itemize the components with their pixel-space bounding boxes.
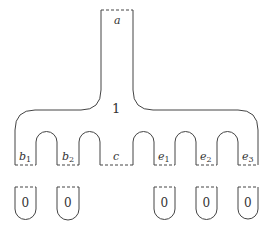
label-b1: b1 xyxy=(19,150,31,164)
label-a: a xyxy=(114,14,121,27)
label-1: 1 xyxy=(112,101,120,116)
label-e2: e2 xyxy=(200,150,212,164)
svg-text:0: 0 xyxy=(22,196,30,210)
svg-text:0: 0 xyxy=(64,196,72,210)
cap-e1: 0 xyxy=(154,187,175,219)
diagram-canvas: a 1 b1 b2 c e1 e2 e3 0 0 0 0 0 xyxy=(0,0,272,239)
svg-text:0: 0 xyxy=(203,196,211,210)
svg-text:0: 0 xyxy=(244,196,252,210)
label-b2: b2 xyxy=(62,150,74,164)
cap-b1: 0 xyxy=(15,187,36,220)
main-surface-outline xyxy=(15,10,258,165)
cobordism-diagram: a 1 b1 b2 c e1 e2 e3 0 0 0 0 0 xyxy=(0,0,272,239)
label-c: c xyxy=(113,150,119,163)
cap-e2: 0 xyxy=(196,187,217,220)
cap-b2: 0 xyxy=(57,187,79,220)
label-e1: e1 xyxy=(158,150,170,164)
cap-e3: 0 xyxy=(238,187,258,219)
svg-text:0: 0 xyxy=(161,196,169,210)
label-e3: e3 xyxy=(242,150,254,164)
